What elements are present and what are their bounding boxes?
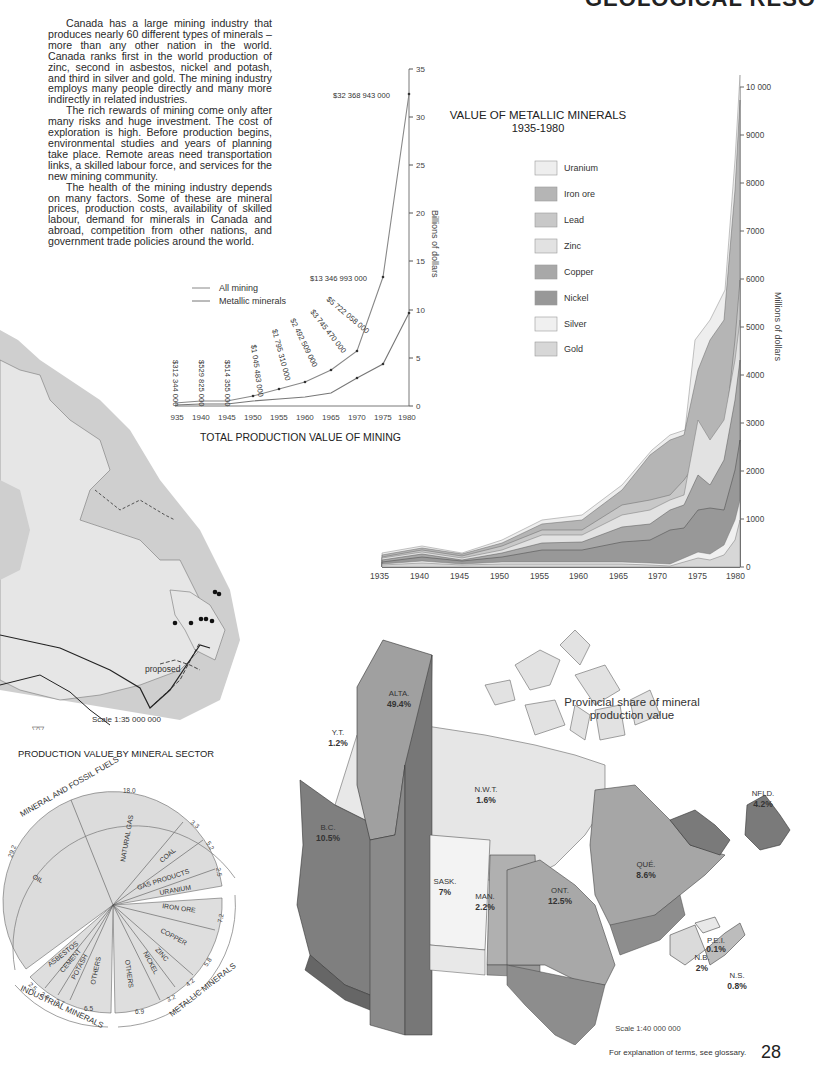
chart-title: Provincial share of mineral [564,696,700,708]
svg-text:8.6%: 8.6% [636,870,656,880]
svg-text:5000: 5000 [746,323,765,332]
svg-text:Lead: Lead [564,215,584,225]
svg-text:All mining: All mining [219,283,258,293]
svg-text:6.9: 6.9 [135,1008,144,1015]
svg-text:1940: 1940 [192,413,210,422]
mine-site-dot [199,617,204,622]
mineral-sector-pie: PRODUCTION VALUE BY MINERAL SECTOR OIL N… [0,745,260,1045]
svg-text:2000: 2000 [746,467,765,476]
svg-text:1960: 1960 [569,571,588,581]
svg-text:1.2%: 1.2% [328,738,348,748]
legend: All mining Metallic minerals [192,283,287,306]
map-scale-label: Scale 1:35 000 000 [92,715,161,724]
svg-text:Y.T.: Y.T. [332,728,344,737]
province-que [590,785,725,935]
svg-text:$312 344 000: $312 344 000 [171,360,180,406]
svg-text:N.W.T.: N.W.T. [475,785,498,794]
svg-text:0: 0 [746,563,751,572]
mine-site-dot [217,592,222,597]
svg-text:10.5%: 10.5% [316,833,341,843]
svg-text:Iron ore: Iron ore [564,189,595,199]
svg-text:2.2%: 2.2% [475,902,495,912]
svg-text:1945: 1945 [450,571,469,581]
mine-site-dot [204,617,209,622]
chart-subtitle: 1935-1980 [512,122,565,134]
svg-text:1955: 1955 [270,413,288,422]
svg-text:ONT.: ONT. [551,886,569,895]
chart-title: VALUE OF METALLIC MINERALS [450,109,627,121]
svg-text:1960: 1960 [296,413,314,422]
svg-text:1950: 1950 [490,571,509,581]
svg-text:$2 492 509 000: $2 492 509 000 [288,317,319,368]
svg-text:7%: 7% [439,887,452,897]
svg-text:Metallic minerals: Metallic minerals [219,296,287,306]
svg-text:9000: 9000 [746,131,765,140]
y-axis-label: Millions of dollars [773,292,783,362]
svg-text:1935: 1935 [170,413,184,422]
svg-text:1945: 1945 [218,413,236,422]
svg-text:Gold: Gold [564,344,583,354]
svg-text:$514 355 000: $514 355 000 [223,360,232,406]
svg-text:0.8%: 0.8% [727,981,747,991]
footer-note: For explanation of terms, see glossary. [609,1048,746,1057]
svg-text:1965: 1965 [609,571,628,581]
svg-text:1.6%: 1.6% [476,795,496,805]
svg-text:NFLD.: NFLD. [752,789,775,798]
svg-text:7000: 7000 [746,227,765,236]
svg-text:ALTA.: ALTA. [389,689,410,698]
map-scale-label: Scale 1:40 000 000 [615,1024,680,1033]
svg-text:Silver: Silver [564,319,587,329]
x-ticks: 1935 1940 1945 1950 1955 1960 1965 1970 … [370,571,745,581]
svg-text:1975: 1975 [688,571,707,581]
svg-text:1935: 1935 [370,571,389,581]
mine-site-dot [213,590,218,595]
svg-text:Nickel: Nickel [564,293,589,303]
chart-subtitle: production value [590,709,674,721]
svg-text:4.2%: 4.2% [753,799,773,809]
svg-text:1955: 1955 [530,571,549,581]
province-sask-side [430,945,485,975]
svg-text:$529 825 000: $529 825 000 [197,360,206,406]
mine-site-dot [210,619,215,624]
svg-text:1940: 1940 [410,571,429,581]
svg-text:10 000: 10 000 [746,83,771,92]
svg-text:1980: 1980 [726,571,745,581]
svg-text:1000: 1000 [746,515,765,524]
svg-text:7.2: 7.2 [216,913,225,923]
y-ticks: 0 1000 2000 3000 4000 5000 6000 7000 800… [740,83,771,572]
arctic-islands [485,630,660,740]
triangle-symbol-icon: ▽▽ [32,725,45,730]
svg-text:Uranium: Uranium [564,163,598,173]
svg-text:N.B.: N.B. [694,953,709,962]
svg-text:8000: 8000 [746,179,765,188]
svg-text:3000: 3000 [746,419,765,428]
svg-text:12.5%: 12.5% [548,896,573,906]
svg-text:6.5: 6.5 [84,1005,93,1012]
svg-text:18.0: 18.0 [123,787,136,794]
svg-text:MAN.: MAN. [475,892,495,901]
svg-text:1970: 1970 [648,571,667,581]
metallic-minerals-chart: 0 1000 2000 3000 4000 5000 6000 7000 800… [350,40,816,585]
svg-text:$1 045 483 000: $1 045 483 000 [249,344,265,398]
svg-text:1950: 1950 [244,413,262,422]
svg-text:SASK.: SASK. [434,877,457,886]
svg-text:49.4%: 49.4% [387,699,412,709]
svg-text:$1 795 310 000: $1 795 310 000 [270,328,292,381]
svg-text:4000: 4000 [746,371,765,380]
mine-site-dot [173,621,178,626]
svg-text:QUÉ.: QUÉ. [636,860,655,869]
svg-text:1965: 1965 [322,413,340,422]
mine-site-dot [189,621,194,626]
page-header-title: GEOLOGICAL RESOURCES [585,0,816,6]
province-pei [695,917,720,933]
legend: Uranium Iron ore Lead Zinc Copper Nickel… [535,161,598,356]
svg-text:6000: 6000 [746,275,765,284]
map-proposed-label: proposed [145,664,180,674]
provincial-share-map: Provincial share of mineral production v… [275,605,816,1045]
svg-text:N.S.: N.S. [729,971,744,980]
page-number: 28 [761,1042,781,1063]
svg-text:B.C.: B.C. [320,823,335,832]
svg-text:Copper: Copper [564,267,594,277]
svg-text:Zinc: Zinc [564,241,582,251]
svg-text:2%: 2% [696,963,709,973]
